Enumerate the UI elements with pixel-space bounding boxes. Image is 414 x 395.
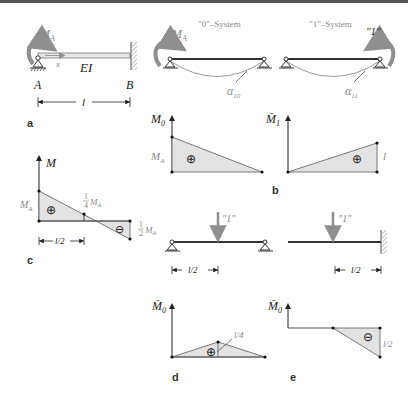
top-border-bar [0,0,408,3]
value-l4-label: l/4 [234,330,244,340]
panel-d-m0-diagram: M̄0 l/4 ⊕ d [151,299,267,383]
svg-text:l/2: l/2 [351,265,361,275]
load-simply-supported: "1" l/2 [165,212,273,275]
stiffness-label: EI [79,60,93,75]
coord-x-label: x [55,59,60,69]
panel-label-a: a [27,117,34,129]
svg-text:MA: MA [19,199,33,213]
svg-text:MA: MA [89,197,102,208]
svg-text:M̄0: M̄0 [267,299,282,315]
svg-text:M0: M0 [150,112,165,128]
fixed-wall-b [131,42,137,70]
svg-text:1: 1 [139,220,143,229]
system-1: "1"–System "1" α11 [279,19,393,100]
support-b-label: B [126,78,134,92]
load-cantilever: "1" l/2 [288,212,387,275]
panel-label-e: e [290,371,296,383]
svg-text:M̄0: M̄0 [151,299,166,315]
unit-load-label: "1" [222,213,236,224]
sign-negative-icon: ⊖ [115,223,124,235]
fixed-wall [381,230,387,254]
svg-text:α10: α10 [227,84,241,100]
svg-text:MA: MA [171,27,187,43]
panel-label-b: b [272,184,279,196]
system1-title: "1"–System [309,19,352,29]
beam-analysis-figure: MA x EI A B l a "0"–System MA α10 "1"–Sy… [0,0,414,395]
svg-text:MA: MA [39,27,55,43]
svg-text:1: 1 [84,192,88,201]
system0-title: "0"–System [198,19,241,29]
unit-load-label: "1" [338,213,352,224]
svg-text:MA: MA [150,150,165,165]
panel-b-m0-diagram: M0 MA ⊕ [150,112,264,174]
panel-c-moment-diagram: M MA ⊕ ⊖ 1 4 MA 1 2 MA l/2 c [19,156,157,266]
unit-moment-label: "1" [366,25,381,37]
panel-e-m0-diagram: M̄0 ⊖ l/2 e [267,299,393,383]
sign-positive-icon: ⊕ [206,345,216,359]
svg-text:2: 2 [139,229,143,238]
sign-positive-icon: ⊕ [46,203,56,217]
svg-text:4: 4 [84,201,88,210]
dimension-l2-label: l/2 [55,236,65,246]
sign-negative-icon: ⊖ [363,330,373,344]
support-a-label: A [33,78,42,92]
sign-positive-icon: ⊕ [352,152,362,166]
span-label: l [82,96,85,108]
panel-a-cantilever: MA x EI A B l a [27,27,137,129]
svg-text:α11: α11 [345,84,358,100]
panel-label-d: d [172,371,179,383]
value-l2-label: l/2 [383,339,393,349]
svg-text:l/2: l/2 [188,265,198,275]
system-0: "0"–System MA α10 [155,19,272,100]
svg-text:MA: MA [144,225,157,236]
panel-label-c: c [27,254,33,266]
svg-text:M̄1: M̄1 [265,112,280,128]
panel-b-m1-diagram: M̄1 l ⊕ b [265,112,386,196]
sign-positive-icon: ⊕ [186,152,196,166]
axis-m-label: M [45,156,57,170]
value-l-label: l [383,150,386,162]
